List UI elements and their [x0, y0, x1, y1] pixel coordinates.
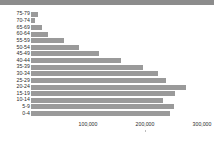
category-label: 5-9 — [0, 103, 30, 110]
bar — [31, 25, 42, 30]
category-label: 25-29 — [0, 77, 30, 84]
x-axis-tick-label: 200,000 — [136, 121, 155, 128]
category-label: 65-69 — [0, 24, 30, 31]
bar — [31, 51, 99, 56]
category-label: 60-64 — [0, 30, 30, 37]
bar — [31, 104, 174, 109]
x-axis-tick-mark — [145, 130, 146, 132]
category-label: 45-49 — [0, 50, 30, 57]
category-label: 70-74 — [0, 17, 30, 24]
category-label: 50-54 — [0, 44, 30, 51]
category-label: 15-19 — [0, 90, 30, 97]
bar — [31, 12, 38, 17]
bar — [31, 85, 186, 90]
bar — [31, 98, 163, 103]
category-label: 20-24 — [0, 83, 30, 90]
x-axis-tick-label: 100,000 — [79, 121, 98, 128]
category-label: 75-79 — [0, 10, 30, 17]
bar-row: 55-59 — [0, 37, 214, 44]
bar — [31, 111, 170, 116]
bar-row: 35-39 — [0, 64, 214, 71]
category-label: 10-14 — [0, 96, 30, 103]
bar-row: 10-14 — [0, 97, 214, 104]
category-label: 40-44 — [0, 57, 30, 64]
category-label: 30-34 — [0, 70, 30, 77]
bar — [31, 32, 48, 37]
category-label: 35-39 — [0, 63, 30, 70]
bar — [31, 65, 143, 70]
bar-row: 60-64 — [0, 31, 214, 38]
bar — [31, 71, 158, 76]
bar-row: 75-79 — [0, 11, 214, 18]
x-axis-tick-label: 300,000 — [193, 121, 212, 128]
bar-row: 5-9 — [0, 104, 214, 111]
bar — [31, 45, 79, 50]
bar-chart-plot-area: 75-7970-7465-6960-6455-5950-5445-4940-44… — [0, 5, 214, 143]
bar — [31, 18, 35, 23]
bar-row: 30-34 — [0, 71, 214, 78]
category-label: 0-4 — [0, 110, 30, 117]
bar — [31, 38, 64, 43]
bar-row: 15-19 — [0, 90, 214, 97]
bar-row: 0-4 — [0, 110, 214, 117]
bar-row: 45-49 — [0, 51, 214, 58]
bar-row: 25-29 — [0, 77, 214, 84]
bar-row: 65-69 — [0, 24, 214, 31]
bar — [31, 58, 121, 63]
bar-row: 40-44 — [0, 57, 214, 64]
bar — [31, 78, 166, 83]
bar — [31, 91, 175, 96]
bar-row: 50-54 — [0, 44, 214, 51]
category-label: 55-59 — [0, 37, 30, 44]
bar-row: 70-74 — [0, 18, 214, 25]
bar-row: 20-24 — [0, 84, 214, 91]
